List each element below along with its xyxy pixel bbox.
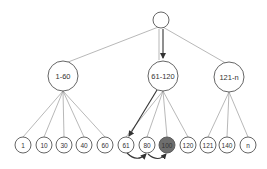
edge-root-to-1-60 xyxy=(63,26,161,64)
leaf-node: 1 xyxy=(15,137,31,153)
leaf-node: 61 xyxy=(118,137,134,153)
range-node-label: 1-60 xyxy=(55,72,70,81)
leaf-node-label: n xyxy=(246,142,250,149)
edge-61-120-to-80 xyxy=(147,91,163,137)
edge-121-n-to-140 xyxy=(227,92,229,137)
edge-121-n-to-n xyxy=(229,92,248,137)
tree-canvas: 1-6061-120121-n1103040606180100120121140… xyxy=(0,0,267,169)
range-node: 61-120 xyxy=(148,61,178,91)
edge-1-60-to-10 xyxy=(44,91,63,137)
leaf-node: 121 xyxy=(200,137,216,153)
leaf-node-label: 1 xyxy=(21,142,25,149)
tree-nodes: 1-6061-120121-n1103040606180100120121140… xyxy=(15,12,256,153)
leaf-node: 30 xyxy=(56,137,72,153)
leaf-node: 10 xyxy=(36,137,52,153)
leaf-node: 100 xyxy=(159,137,175,153)
leaf-node-label: 121 xyxy=(203,142,214,149)
tree-diagram: 1-6061-120121-n1103040606180100120121140… xyxy=(0,0,267,169)
leaf-node: n xyxy=(240,137,256,153)
edge-1-60-to-30 xyxy=(63,91,64,137)
edge-1-60-to-1 xyxy=(23,91,63,137)
leaf-node-label: 10 xyxy=(40,142,48,149)
leaf-node: 80 xyxy=(139,137,155,153)
leaf-node-label: 60 xyxy=(101,142,109,149)
leaf-node: 120 xyxy=(180,137,196,153)
leaf-node-label: 61 xyxy=(122,142,130,149)
root-node xyxy=(153,12,169,28)
leaf-node: 140 xyxy=(219,137,235,153)
edge-61-120-to-61 xyxy=(126,91,163,137)
edge-121-n-to-121 xyxy=(208,92,229,137)
leaf-node-label: 80 xyxy=(143,142,151,149)
leaf-node: 40 xyxy=(76,137,92,153)
range-node-label: 121-n xyxy=(219,73,238,82)
leaf-node-label: 40 xyxy=(80,142,88,149)
mid-to-leaf-arrow xyxy=(129,90,157,136)
scan-arrow-61-80 xyxy=(127,153,146,158)
edge-1-60-to-40 xyxy=(63,91,84,137)
leaf-node-label: 100 xyxy=(162,142,173,149)
leaf-node: 60 xyxy=(97,137,113,153)
edge-1-60-to-60 xyxy=(63,91,105,137)
edge-root-to-121-n xyxy=(161,26,229,65)
scan-arrow-80-100 xyxy=(148,154,166,159)
range-node: 121-n xyxy=(214,62,244,92)
leaf-node-label: 140 xyxy=(222,142,233,149)
leaf-node-label: 30 xyxy=(60,142,68,149)
range-node-label: 61-120 xyxy=(151,72,174,81)
range-node: 1-60 xyxy=(48,61,78,91)
leaf-node-label: 120 xyxy=(183,142,194,149)
